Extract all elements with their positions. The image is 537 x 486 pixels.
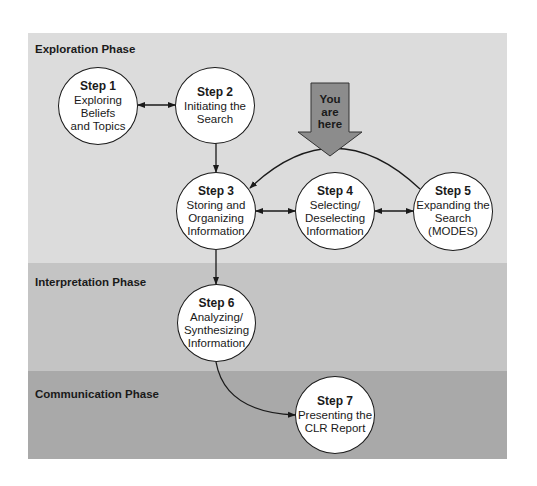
step-6-desc: Analyzing/ Synthesizing Information bbox=[184, 311, 249, 350]
step-3-node: Step 3 Storing and Organizing Informatio… bbox=[176, 172, 256, 250]
step-5-node: Step 5 Expanding the Search (MODES) bbox=[413, 172, 493, 251]
step-3-title: Step 3 bbox=[198, 185, 234, 198]
step-1-title: Step 1 bbox=[80, 80, 116, 93]
step-7-desc: Presenting the CLR Report bbox=[298, 409, 372, 435]
step-7-node: Step 7 Presenting the CLR Report bbox=[295, 376, 375, 454]
step-1-desc: Exploring Beliefs and Topics bbox=[71, 94, 126, 133]
step-4-node: Step 4 Selecting/ Deselecting Informatio… bbox=[295, 172, 375, 250]
step-4-title: Step 4 bbox=[317, 185, 353, 198]
step-1-node: Step 1 Exploring Beliefs and Topics bbox=[58, 67, 138, 145]
step-5-desc: Expanding the Search (MODES) bbox=[416, 199, 490, 238]
step-2-desc: Initiating the Search bbox=[184, 100, 246, 126]
you-are-here-label: You are here bbox=[310, 93, 350, 131]
step-2-title: Step 2 bbox=[197, 86, 233, 99]
step-4-desc: Selecting/ Deselecting Information bbox=[305, 199, 365, 238]
step-7-title: Step 7 bbox=[317, 395, 353, 408]
step-2-node: Step 2 Initiating the Search bbox=[175, 67, 255, 144]
step-5-title: Step 5 bbox=[435, 185, 471, 198]
step-6-title: Step 6 bbox=[198, 297, 234, 310]
step-3-desc: Storing and Organizing Information bbox=[187, 199, 246, 238]
step-6-node: Step 6 Analyzing/ Synthesizing Informati… bbox=[177, 284, 256, 362]
